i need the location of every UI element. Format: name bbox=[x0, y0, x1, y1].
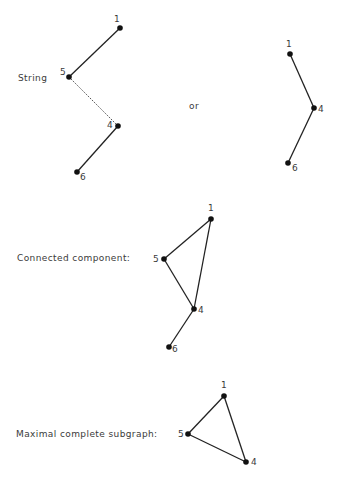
edge-4-6 bbox=[169, 309, 194, 347]
edge-1-5 bbox=[188, 396, 224, 434]
vertex-label-5: 5 bbox=[153, 254, 159, 264]
vertex-1 bbox=[117, 25, 123, 31]
vertex-label-4: 4 bbox=[318, 104, 324, 114]
edge-1-5 bbox=[69, 28, 120, 77]
edge-4-6 bbox=[288, 108, 314, 163]
vertex-4 bbox=[191, 306, 197, 312]
vertex-1 bbox=[287, 51, 293, 57]
vertex-4 bbox=[243, 459, 249, 465]
vertex-6 bbox=[166, 344, 172, 350]
graph-mcs: 154 bbox=[178, 380, 257, 467]
vertex-label-1: 1 bbox=[221, 380, 227, 390]
vertex-label-5: 5 bbox=[60, 67, 66, 77]
vertex-label-4: 4 bbox=[198, 305, 204, 315]
vertex-1 bbox=[208, 216, 214, 222]
graph-string-b: 146 bbox=[285, 39, 324, 173]
vertex-5 bbox=[161, 256, 167, 262]
edge-5-4 bbox=[164, 259, 194, 309]
vertex-6 bbox=[74, 169, 80, 175]
vertex-1 bbox=[221, 393, 227, 399]
vertex-label-4: 4 bbox=[251, 457, 257, 467]
vertex-label-6: 6 bbox=[292, 163, 298, 173]
vertex-6 bbox=[285, 160, 291, 166]
vertex-5 bbox=[185, 431, 191, 437]
vertex-label-5: 5 bbox=[178, 429, 184, 439]
edge-1-4 bbox=[224, 396, 246, 462]
edge-4-6 bbox=[77, 126, 118, 172]
vertex-label-1: 1 bbox=[286, 39, 292, 49]
edge-5-4 bbox=[188, 434, 246, 462]
graph-canvas: 15461461546154 bbox=[0, 0, 343, 485]
edge-1-4 bbox=[194, 219, 211, 309]
vertex-label-6: 6 bbox=[172, 344, 178, 354]
graph-string-a: 1546 bbox=[60, 14, 123, 182]
vertex-label-6: 6 bbox=[80, 172, 86, 182]
edge-1-4 bbox=[290, 54, 314, 108]
vertex-4 bbox=[311, 105, 317, 111]
vertex-label-1: 1 bbox=[114, 14, 120, 24]
vertex-5 bbox=[66, 74, 72, 80]
vertex-label-1: 1 bbox=[208, 203, 214, 213]
edge-5-4 bbox=[69, 77, 118, 126]
vertex-label-4: 4 bbox=[107, 120, 113, 130]
vertex-4 bbox=[115, 123, 121, 129]
graph-cc: 1546 bbox=[153, 203, 214, 354]
